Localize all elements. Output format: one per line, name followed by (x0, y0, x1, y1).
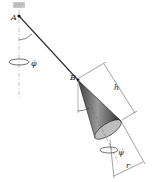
pivot-a (17, 14, 20, 17)
rod-ab (19, 16, 78, 80)
cone-diagram: A φ̇ B h ψ̇ r (0, 0, 153, 182)
label-phi: φ̇ (31, 59, 37, 68)
label-point-b: B (69, 73, 76, 82)
label-radius: r (126, 161, 131, 170)
label-psi: ψ̇ (118, 148, 125, 157)
label-point-a: A (10, 13, 17, 22)
label-height: h (114, 83, 119, 92)
fixed-support (13, 2, 25, 8)
beta-arc (19, 34, 32, 40)
spin-arrow-icon (100, 147, 118, 153)
